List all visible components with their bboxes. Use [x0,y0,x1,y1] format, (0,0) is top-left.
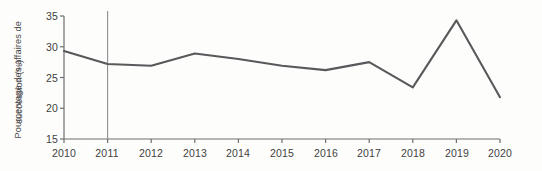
line-chart: Pourcentage des affaires de succession (… [0,0,542,171]
chart-plot-area [0,0,542,171]
axis-lines [64,16,500,139]
x-axis-ticks [64,139,500,143]
data-series-line [64,20,500,97]
